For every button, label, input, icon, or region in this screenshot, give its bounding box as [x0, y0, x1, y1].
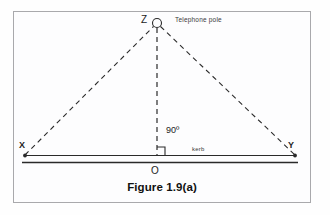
vertex-label-o: O: [151, 166, 159, 176]
kerb-label: kerb: [192, 146, 204, 152]
vertex-label-y: Y: [288, 141, 294, 150]
angle-label-90: 90º: [166, 126, 179, 135]
vertex-label-x: X: [19, 141, 25, 150]
vertex-marker-y: [293, 154, 297, 158]
dashed-line-zy: [161, 27, 296, 156]
vertex-label-z: Z: [141, 15, 147, 25]
telephone-pole-label: Telephone pole: [175, 17, 222, 24]
figure-caption: Figure 1.9(a): [13, 181, 311, 193]
figure-container: Z Telephone pole 90º kerb X Y O Figure 1…: [0, 0, 330, 215]
vertex-marker-x: [23, 154, 27, 158]
telephone-pole-circle-icon: [153, 19, 162, 28]
right-angle-marker: [157, 147, 165, 155]
dashed-line-xz: [25, 27, 154, 156]
